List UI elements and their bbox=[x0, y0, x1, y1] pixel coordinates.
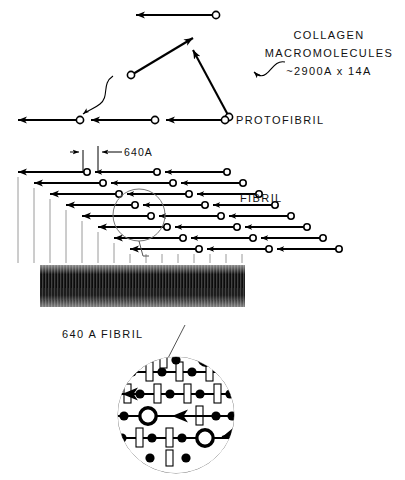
macromolecule-diagonal-right bbox=[193, 50, 233, 121]
collagen-label-line1: COLLAGEN bbox=[293, 29, 364, 41]
fibril-row bbox=[34, 180, 246, 186]
molecule-end-circle bbox=[170, 180, 176, 186]
molecule-end-circle bbox=[320, 235, 326, 241]
protofibril-molecule-2 bbox=[91, 116, 159, 123]
protofibril-molecule-1 bbox=[18, 116, 84, 123]
protofibril-molecule-3 bbox=[166, 116, 229, 123]
molecule-end-circle bbox=[154, 169, 160, 175]
molecule-end-circle bbox=[180, 235, 186, 241]
molecule-end-circle bbox=[250, 235, 256, 241]
collagen-label-line3: ~2900A x 14A bbox=[286, 65, 372, 77]
fibril-row bbox=[98, 224, 310, 230]
molecule-end-circle bbox=[240, 180, 246, 186]
molecule-end-circle bbox=[218, 213, 224, 219]
molecule-end-circle bbox=[212, 11, 219, 18]
protofibril-group: PROTOFIBRIL bbox=[18, 76, 325, 126]
molecule-end-circle bbox=[100, 180, 106, 186]
collagen-label-leader bbox=[254, 62, 285, 76]
molecule-end-circle bbox=[84, 169, 90, 175]
collagen-fibril-diagram: COLLAGEN MACROMOLECULES ~2900A x 14A PRO… bbox=[0, 0, 405, 480]
molecule-end-circle bbox=[186, 191, 192, 197]
fibril-row bbox=[82, 213, 294, 219]
collagen-label-line2: MACROMOLECULES bbox=[265, 47, 393, 59]
fibril-row bbox=[50, 191, 262, 197]
period-label: 640A bbox=[124, 146, 153, 158]
fibril-row bbox=[130, 246, 342, 252]
detail-molecule-end-circle bbox=[197, 430, 213, 446]
molecule-end-circle bbox=[224, 169, 230, 175]
detail-circle-contents bbox=[117, 351, 245, 474]
molecule-end-circle bbox=[336, 246, 342, 252]
protofibril-label: PROTOFIBRIL bbox=[236, 114, 325, 126]
fibril-label: FIBRIL bbox=[240, 192, 283, 204]
detail-caption-label: 640 A FIBRIL bbox=[62, 328, 144, 340]
molecule-end-circle bbox=[288, 213, 294, 219]
molecule-end-circle bbox=[304, 224, 310, 230]
molecule-end-circle bbox=[221, 116, 228, 123]
protofibril-assembly-leader bbox=[83, 76, 113, 114]
molecule-end-circle bbox=[164, 224, 170, 230]
free-macromolecules-group bbox=[127, 11, 232, 120]
molecule-end-circle bbox=[148, 213, 154, 219]
molecule-end-circle bbox=[196, 246, 202, 252]
collagen-label-block: COLLAGEN MACROMOLECULES ~2900A x 14A bbox=[254, 29, 393, 77]
macromolecule-top bbox=[136, 11, 220, 18]
period-dimension-group: 640A bbox=[70, 146, 153, 172]
molecule-end-circle bbox=[266, 246, 272, 252]
fibril-group: FIBRIL bbox=[18, 169, 342, 252]
detail-caption-leader bbox=[166, 325, 185, 362]
molecule-end-circle bbox=[132, 202, 138, 208]
molecule-end-circle bbox=[76, 116, 83, 123]
macromolecule-diagonal-left bbox=[127, 38, 193, 79]
electron-micrograph bbox=[40, 265, 245, 307]
molecule-end-circle bbox=[202, 202, 208, 208]
molecule-end-circle bbox=[234, 224, 240, 230]
molecule-end-circle bbox=[127, 71, 134, 78]
fibril-detail-circle bbox=[117, 351, 245, 474]
detail-molecule-end-circle bbox=[140, 408, 156, 424]
molecule-end-circle bbox=[151, 116, 158, 123]
periodicity-ticks-group bbox=[18, 177, 242, 263]
fibril-row bbox=[18, 169, 230, 175]
detail-caption-group: 640 A FIBRIL bbox=[62, 325, 185, 362]
